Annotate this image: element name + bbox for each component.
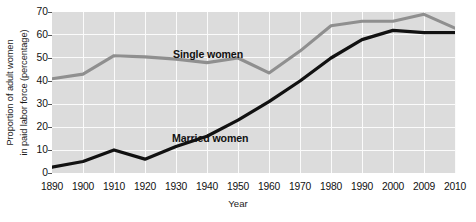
x-tick-label-2010: 2010 xyxy=(435,181,475,192)
married-women-series-label: Married women xyxy=(172,132,248,144)
y-tick-label-0: 0 xyxy=(26,168,48,178)
y-tick-label-70: 70 xyxy=(26,7,48,17)
y-tick-label-60: 60 xyxy=(26,30,48,40)
married-women-line xyxy=(52,30,455,167)
y-axis-title-line-1: Proportion of adult women xyxy=(3,12,18,173)
gridline-vertical xyxy=(455,12,456,173)
single-women-series-label: Single women xyxy=(173,48,243,60)
series-lines xyxy=(52,12,455,173)
y-tick-label-30: 30 xyxy=(26,99,48,109)
y-tick-label-20: 20 xyxy=(26,122,48,132)
y-tick-mark xyxy=(48,173,52,174)
y-tick-label-50: 50 xyxy=(26,53,48,63)
y-tick-label-10: 10 xyxy=(26,145,48,155)
x-axis-title: Year xyxy=(0,198,476,209)
y-tick-label-40: 40 xyxy=(26,76,48,86)
line-chart-figure: Proportion of adult women in paid labor … xyxy=(0,0,476,222)
single-women-line xyxy=(52,14,455,78)
plot-area: Single women Married women xyxy=(52,12,455,173)
